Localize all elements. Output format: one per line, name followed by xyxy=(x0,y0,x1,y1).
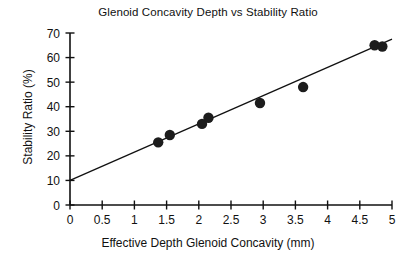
x-tick-label: 4 xyxy=(324,213,331,227)
y-tick-label: 20 xyxy=(47,149,61,163)
x-tick-label: 2.5 xyxy=(223,213,240,227)
data-point-marker xyxy=(165,130,175,140)
plot-area: 00.511.522.533.544.55 010203040506070 xyxy=(0,0,416,264)
x-tick-label: 1 xyxy=(131,213,138,227)
data-point-marker xyxy=(255,98,265,108)
axes-group xyxy=(66,33,393,210)
y-tick-label: 10 xyxy=(47,174,61,188)
data-point-marker xyxy=(298,82,308,92)
trend-line xyxy=(70,39,392,180)
x-tick-label: 2 xyxy=(195,213,202,227)
x-tick-label: 4.5 xyxy=(351,213,368,227)
x-axis-label: Effective Depth Glenoid Concavity (mm) xyxy=(0,236,416,250)
x-tick-label: 5 xyxy=(389,213,396,227)
y-tick-label: 60 xyxy=(47,51,61,65)
x-tick-label: 1.5 xyxy=(158,213,175,227)
data-point-marker xyxy=(377,41,387,51)
y-tick-label: 40 xyxy=(47,100,61,114)
data-point-marker xyxy=(203,113,213,123)
x-tick-label: 0.5 xyxy=(94,213,111,227)
x-tick-labels: 00.511.522.533.544.55 xyxy=(67,213,396,227)
x-tick-label: 3 xyxy=(260,213,267,227)
data-point-marker xyxy=(153,137,163,147)
y-tick-label: 50 xyxy=(47,76,61,90)
y-tick-label: 30 xyxy=(47,125,61,139)
chart-figure: Glenoid Concavity Depth vs Stability Rat… xyxy=(0,0,416,264)
y-tick-labels: 010203040506070 xyxy=(47,27,61,213)
y-axis-label: Stability Ratio (%) xyxy=(21,27,35,207)
x-tick-label: 0 xyxy=(67,213,74,227)
regression-line xyxy=(70,39,392,180)
y-tick-label: 0 xyxy=(53,199,60,213)
y-tick-label: 70 xyxy=(47,27,61,41)
x-tick-label: 3.5 xyxy=(287,213,304,227)
